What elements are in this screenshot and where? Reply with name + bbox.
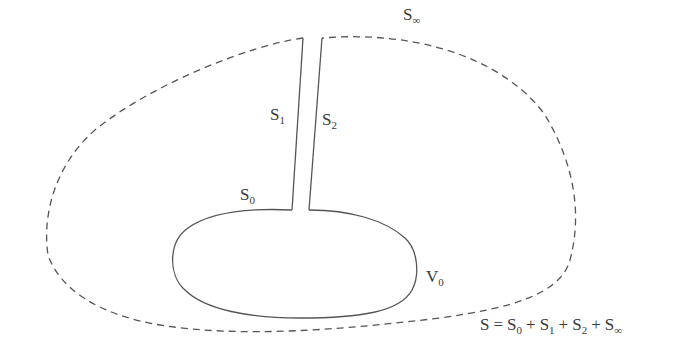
label-v0: V0 xyxy=(426,267,444,288)
label-s-inf: S∞ xyxy=(403,5,420,26)
diagram-canvas: S∞ S1 S2 S0 V0 S=S0+S1+S2+S∞ xyxy=(0,0,686,360)
label-s2: S2 xyxy=(322,110,337,131)
equation-total-surface: S=S0+S1+S2+S∞ xyxy=(480,315,622,336)
label-s1: S1 xyxy=(270,105,285,126)
inner-surface-s0 xyxy=(173,210,417,318)
cut-line-s2 xyxy=(309,38,322,210)
cut-line-s1 xyxy=(292,38,303,210)
label-s0: S0 xyxy=(240,185,255,206)
